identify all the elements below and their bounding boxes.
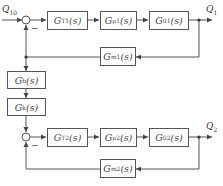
block-gu1: Gμ1(s) bbox=[100, 11, 137, 30]
block-g02: G02(s) bbox=[149, 128, 189, 147]
block-diagram: Q10 Q1 Q2 − − GT1(s) Gμ1(s) G01(s) Gm1(s… bbox=[0, 0, 223, 186]
block-gu2: Gμ2(s) bbox=[100, 128, 137, 147]
input-signal-label: Q10 bbox=[2, 4, 17, 16]
block-gm1: Gm1(s) bbox=[100, 47, 136, 66]
block-gt2: GT2(s) bbox=[47, 128, 88, 147]
loop1-minus-sign: − bbox=[31, 23, 39, 33]
loop2-minus-sign: − bbox=[31, 140, 39, 150]
block-gm2: Gm2(s) bbox=[100, 159, 136, 178]
block-gb: Gb(s) bbox=[7, 71, 46, 89]
output1-signal-label: Q1 bbox=[206, 4, 217, 16]
block-g01: G01(s) bbox=[149, 11, 189, 30]
block-gk: Gk(s) bbox=[7, 98, 46, 116]
output2-signal-label: Q2 bbox=[206, 121, 217, 133]
block-gt1: GT1(s) bbox=[47, 11, 88, 30]
